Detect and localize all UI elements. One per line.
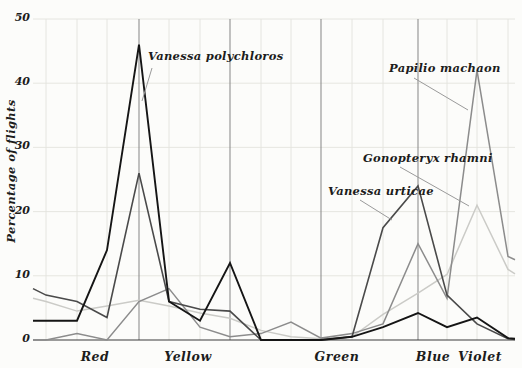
y-axis-title: Percentage of flights bbox=[4, 96, 18, 246]
y-tick-label-20: 20 bbox=[0, 204, 30, 217]
series-line-vanessa-urticae bbox=[33, 173, 515, 340]
annotation-papilio-machaon: Papilio machaon bbox=[389, 61, 501, 75]
x-color-label-green: Green bbox=[315, 349, 360, 364]
annotation-gonopteryx-rhamni: Gonopteryx rhamni bbox=[363, 151, 493, 165]
series-line-vanessa-polychloros bbox=[33, 45, 515, 340]
y-tick-label-50: 50 bbox=[0, 11, 30, 24]
x-color-label-blue: Blue bbox=[416, 349, 450, 364]
y-tick-label-10: 10 bbox=[0, 268, 30, 281]
butterfly-flight-color-chart: Percentage of flights 01020304050RedYell… bbox=[0, 0, 522, 368]
annotation-pointer-vanessa-urticae bbox=[360, 200, 392, 220]
x-color-label-yellow: Yellow bbox=[164, 349, 211, 364]
annotation-vanessa-urticae: Vanessa urticae bbox=[328, 184, 434, 198]
x-color-label-violet: Violet bbox=[458, 349, 502, 364]
y-tick-label-40: 40 bbox=[0, 75, 30, 88]
x-color-label-red: Red bbox=[81, 349, 110, 364]
annotation-vanessa-polychloros: Vanessa polychloros bbox=[148, 49, 283, 63]
series-line-gonopteryx-rhamni bbox=[33, 205, 515, 339]
y-tick-label-30: 30 bbox=[0, 139, 30, 152]
y-tick-label-0: 0 bbox=[0, 332, 30, 345]
series-line-papilio-machaon bbox=[33, 70, 515, 340]
